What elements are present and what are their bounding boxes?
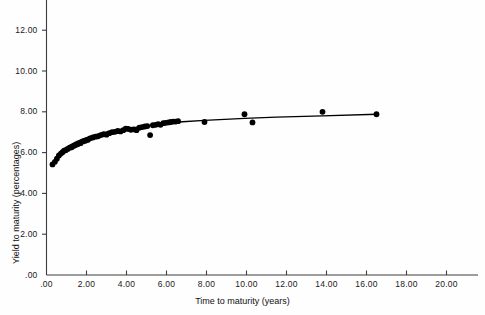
- data-point: [242, 111, 248, 117]
- axes-group: [47, 0, 479, 275]
- y-tick-label: .00: [0, 270, 38, 280]
- data-point: [202, 119, 208, 125]
- y-tick-label: 12.00: [0, 25, 38, 35]
- data-point: [250, 120, 256, 126]
- y-tick-label: 8.00: [0, 106, 38, 116]
- data-point: [144, 123, 150, 129]
- data-point: [147, 132, 153, 138]
- chart-container: .002.004.006.008.0010.0012.00 .002.004.0…: [0, 0, 485, 315]
- tick-marks: [42, 30, 447, 275]
- fitted-curve-line: [53, 114, 377, 164]
- data-point: [320, 109, 326, 115]
- y-axis-label: Yield to maturity (percentages): [11, 142, 21, 264]
- x-tick-label: 20.00: [422, 279, 472, 289]
- data-points: [50, 109, 380, 167]
- fitted-curve-path: [53, 114, 377, 164]
- data-point: [374, 111, 380, 117]
- data-point: [175, 118, 181, 124]
- x-axis-label: Time to maturity (years): [0, 296, 485, 306]
- plot-area: [0, 0, 485, 315]
- y-tick-label: 10.00: [0, 66, 38, 76]
